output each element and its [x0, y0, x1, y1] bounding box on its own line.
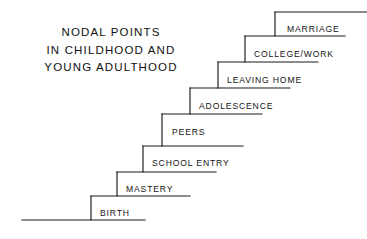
title-line-2: IN CHILDHOOD AND — [16, 42, 206, 60]
step-label-marriage: MARRIAGE — [287, 25, 340, 34]
step-label-peers: PEERS — [172, 128, 205, 137]
step-label-adolescence: ADOLESCENCE — [199, 102, 273, 111]
title-line-1: NODAL POINTS — [16, 24, 206, 42]
step-label-birth: BIRTH — [100, 209, 130, 218]
step-label-leaving-home: LEAVING HOME — [227, 76, 302, 85]
nodal-points-figure: NODAL POINTS IN CHILDHOOD AND YOUNG ADUL… — [0, 0, 367, 239]
title-line-3: YOUNG ADULTHOOD — [16, 59, 206, 77]
step-label-college-work: COLLEGE/WORK — [254, 50, 334, 59]
page-title: NODAL POINTS IN CHILDHOOD AND YOUNG ADUL… — [16, 24, 206, 77]
step-label-mastery: MASTERY — [126, 185, 173, 194]
step-label-school-entry: SCHOOL ENTRY — [152, 159, 230, 168]
